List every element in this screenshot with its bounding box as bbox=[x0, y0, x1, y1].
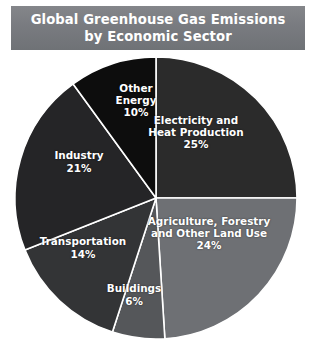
chart-title-banner: Global Greenhouse Gas Emissions by Econo… bbox=[11, 6, 305, 50]
chart-figure: Global Greenhouse Gas Emissions by Econo… bbox=[0, 0, 316, 348]
chart-title-line-2: by Economic Sector bbox=[84, 28, 232, 45]
chart-title-line-1: Global Greenhouse Gas Emissions bbox=[31, 11, 286, 28]
pie-chart-svg bbox=[0, 52, 316, 348]
pie-chart-area: Electricity andHeat Production25%Agricul… bbox=[0, 52, 316, 348]
pie-slice[interactable] bbox=[156, 57, 297, 198]
pie-slice[interactable] bbox=[156, 198, 297, 339]
